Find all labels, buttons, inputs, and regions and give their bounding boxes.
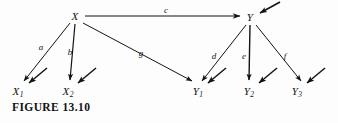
path-e-line (249, 25, 250, 80)
node-x2: X2 (62, 85, 73, 99)
disturbance-arrow-y3 (307, 68, 325, 83)
edge-label-b: b (68, 47, 73, 57)
node-y2-subscript: 2 (250, 90, 254, 99)
node-y1: Y1 (193, 85, 204, 99)
node-y: Y (247, 11, 253, 23)
edge-label-e: e (242, 51, 246, 61)
node-y3-subscript: 3 (298, 90, 302, 99)
path-a-line (24, 23, 70, 81)
node-y1-subscript: 1 (199, 90, 203, 99)
disturbance-arrow-y (260, 2, 280, 13)
node-x2-subscript: 2 (70, 90, 74, 99)
path-g-line (83, 23, 192, 81)
figure-caption: FIGURE 13.10 (12, 101, 90, 113)
edge-label-d: d (212, 51, 217, 61)
node-x1-subscript: 1 (20, 90, 24, 99)
path-f-line (256, 25, 301, 81)
node-x1: X1 (12, 85, 23, 99)
edge-label-a: a (39, 42, 44, 52)
disturbance-arrow-x1 (29, 68, 47, 83)
structural-paths (24, 16, 301, 81)
edge-label-g: g (139, 48, 144, 58)
node-y2: Y2 (244, 85, 255, 99)
node-x: X (72, 10, 79, 22)
disturbance-arrow-y2 (259, 68, 277, 83)
path-diagram-figure: X Y X1 X2 Y1 Y2 Y3 a b c g d e f FIGURE … (0, 0, 338, 123)
edge-label-c: c (164, 5, 168, 15)
edge-label-f: f (284, 51, 287, 61)
disturbance-arrow-x2 (78, 68, 96, 83)
path-d-line (202, 25, 246, 81)
node-y3: Y3 (292, 85, 303, 99)
